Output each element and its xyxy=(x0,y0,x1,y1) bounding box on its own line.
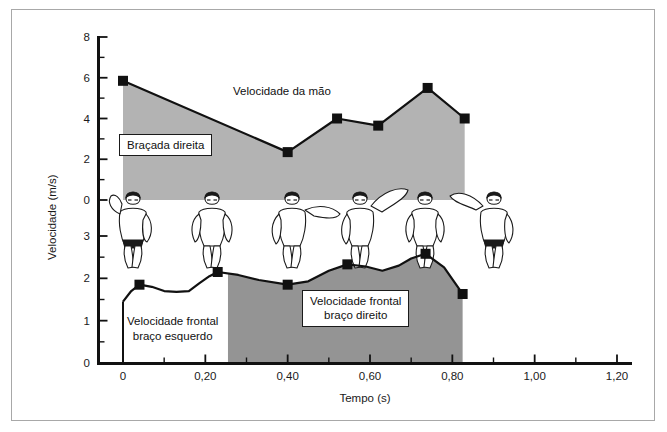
y-axis-tick-label: 2 xyxy=(62,153,90,165)
x-axis-tick-label: 0,40 xyxy=(276,370,298,382)
y-axis-tick-label: 4 xyxy=(62,113,90,125)
y-axis-tick-label: 0 xyxy=(62,357,90,369)
swimmer-sequence xyxy=(109,189,512,268)
front-left-label-line2: braço esquerdo xyxy=(127,329,218,344)
data-point-marker xyxy=(373,121,383,131)
data-point-marker xyxy=(213,267,223,277)
data-point-marker xyxy=(458,289,468,299)
data-point-marker xyxy=(283,147,293,157)
y-axis-tick-label: 1 xyxy=(62,315,90,327)
right-stroke-callout: Braçada direita xyxy=(119,134,212,156)
data-point-marker xyxy=(332,114,342,124)
swimmer-figure xyxy=(109,192,151,268)
data-point-marker xyxy=(421,249,431,259)
x-axis-tick-label: 0 xyxy=(120,370,126,382)
data-point-marker xyxy=(342,259,352,269)
y-axis-tick-label: 2 xyxy=(62,272,90,284)
y-axis-tick-label: 6 xyxy=(62,72,90,84)
swimmer-figure xyxy=(272,192,340,268)
y-axis-tick-label: 0 xyxy=(62,194,90,206)
y-axis-tick-label: 8 xyxy=(62,31,90,43)
x-axis-tick-label: 0,20 xyxy=(194,370,216,382)
data-point-marker xyxy=(460,114,470,124)
y-axis-title: Velocidade (m/s) xyxy=(46,174,58,260)
swimmer-figure xyxy=(342,189,408,268)
data-point-marker xyxy=(423,83,433,93)
data-point-marker xyxy=(134,280,144,290)
hand-velocity-label: Velocidade da mão xyxy=(233,85,331,97)
front-right-label-line1: Velocidade frontal xyxy=(310,294,401,308)
data-point-marker xyxy=(118,76,128,86)
x-axis-title: Tempo (s) xyxy=(339,392,390,404)
swimmer-figure xyxy=(450,192,513,268)
x-axis-tick-label: 1,20 xyxy=(606,370,628,382)
right-stroke-label: Braçada direita xyxy=(127,139,204,151)
x-axis-tick-label: 0,60 xyxy=(359,370,381,382)
front-left-label: Velocidade frontal braço esquerdo xyxy=(127,314,218,344)
data-point-marker xyxy=(283,280,293,290)
swimmer-figure xyxy=(192,192,232,268)
y-axis-tick-label: 3 xyxy=(62,230,90,242)
x-axis-tick-label: 0,80 xyxy=(441,370,463,382)
front-right-callout: Velocidade frontal braço direito xyxy=(302,290,409,327)
front-left-label-line1: Velocidade frontal xyxy=(127,314,218,329)
front-right-label-line2: braço direito xyxy=(310,308,401,322)
x-axis-tick-label: 1,00 xyxy=(523,370,545,382)
chart-canvas xyxy=(0,0,667,432)
